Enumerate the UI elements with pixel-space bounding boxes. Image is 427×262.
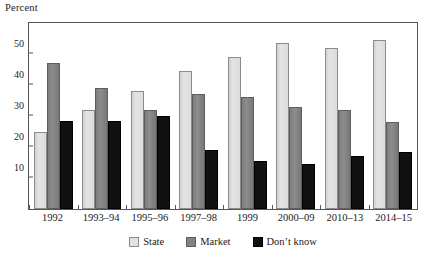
y-axis-tick-label: 20	[14, 131, 24, 142]
x-axis-label: 1997–98	[174, 212, 223, 230]
legend-label: Market	[200, 236, 230, 247]
bar-group	[228, 23, 267, 209]
legend-item: Market	[186, 236, 230, 247]
bar-market	[192, 94, 205, 209]
x-axis-tick-mark	[417, 205, 418, 209]
bar-group	[276, 23, 315, 209]
x-axis-label: 1995–96	[126, 212, 175, 230]
bar-state	[34, 132, 47, 210]
x-axis-label: 2014–15	[369, 212, 418, 230]
bar-group	[82, 23, 121, 209]
bar-chart-figure: Percent 1020304050 19921993–941995–96199…	[0, 0, 427, 262]
bar-dk	[108, 121, 121, 209]
legend-label: Don’t know	[267, 236, 317, 247]
bar-state	[82, 110, 95, 209]
x-axis-tick-mark	[223, 205, 224, 209]
legend-label: State	[143, 236, 164, 247]
x-axis-tick-mark	[126, 205, 127, 209]
x-axis-tick-mark	[369, 205, 370, 209]
bar-market	[386, 122, 399, 209]
bar-state	[131, 91, 144, 209]
x-axis-label: 2010–13	[321, 212, 370, 230]
y-axis-title: Percent	[5, 2, 38, 13]
bar-market	[144, 110, 157, 209]
legend-swatch-state	[129, 237, 139, 247]
bar-state	[179, 71, 192, 209]
plot-frame: 1020304050	[28, 22, 418, 210]
y-axis-tick-label: 40	[14, 69, 24, 80]
x-axis-tick-mark	[78, 205, 79, 209]
bar-state	[276, 43, 289, 209]
bar-market	[95, 88, 108, 209]
x-axis-label: 2000–09	[272, 212, 321, 230]
y-axis-tick-label: 10	[14, 162, 24, 173]
chart-legend: StateMarketDon’t know	[28, 236, 418, 247]
bar-dk	[351, 156, 364, 209]
bar-dk	[254, 161, 267, 209]
bar-groups	[29, 23, 417, 209]
x-axis-tick-mark	[320, 205, 321, 209]
x-axis-tick-mark	[29, 205, 30, 209]
bar-dk	[157, 116, 170, 209]
bar-group	[373, 23, 412, 209]
legend-item: Don’t know	[253, 236, 317, 247]
bar-market	[289, 107, 302, 209]
bar-state	[325, 48, 338, 209]
legend-item: State	[129, 236, 164, 247]
legend-swatch-market	[186, 237, 196, 247]
bar-dk	[60, 121, 73, 209]
bar-state	[373, 40, 386, 209]
bar-dk	[302, 164, 315, 209]
legend-swatch-dk	[253, 237, 263, 247]
x-axis-tick-mark	[175, 205, 176, 209]
bar-market	[241, 97, 254, 209]
bar-market	[47, 63, 60, 209]
x-axis-labels: 19921993–941995–961997–9819992000–092010…	[28, 212, 418, 230]
bar-group	[34, 23, 73, 209]
bar-group	[179, 23, 218, 209]
x-axis-label: 1993–94	[77, 212, 126, 230]
bar-market	[338, 110, 351, 209]
y-axis-tick-label: 50	[14, 38, 24, 49]
x-axis-label: 1999	[223, 212, 272, 230]
bar-group	[131, 23, 170, 209]
bar-dk	[205, 150, 218, 209]
x-axis-label: 1992	[28, 212, 77, 230]
y-axis-tick-label: 30	[14, 100, 24, 111]
bar-state	[228, 57, 241, 209]
bar-group	[325, 23, 364, 209]
plot-area: 1020304050	[29, 23, 417, 209]
bar-dk	[399, 152, 412, 209]
x-axis-tick-mark	[272, 205, 273, 209]
